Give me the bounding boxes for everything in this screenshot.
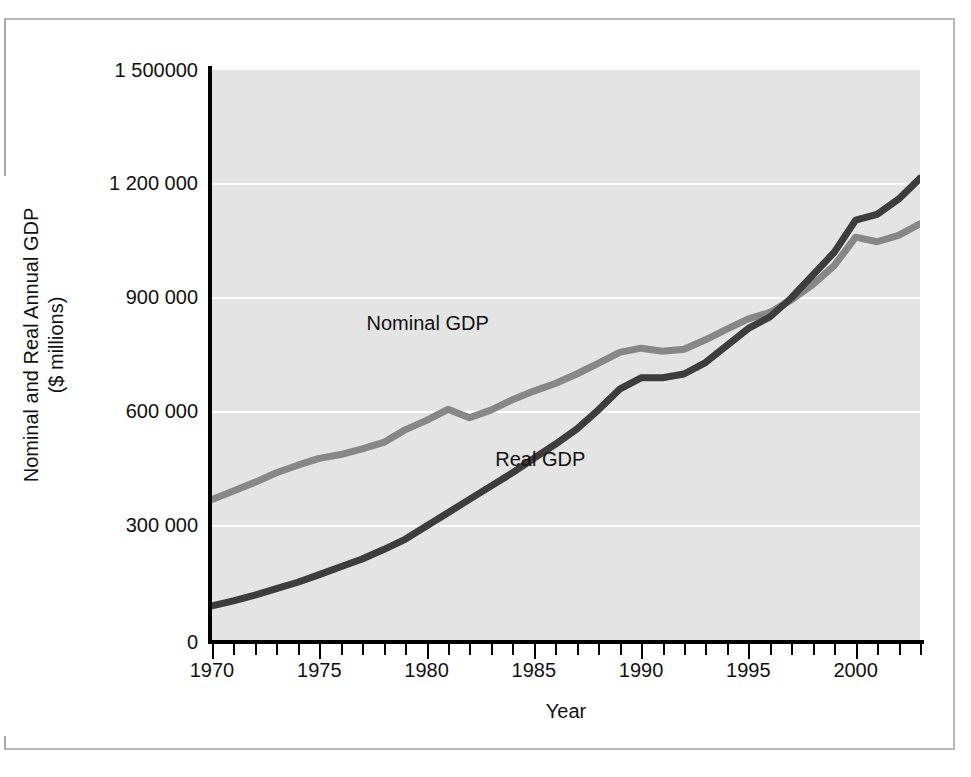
x-tick-1994 [727, 644, 729, 655]
x-tick-1983 [491, 644, 493, 655]
x-tick-label-1980: 1980 [392, 660, 462, 680]
series-label-nominal-gdp: Nominal GDP [367, 312, 489, 335]
y-axis-title-main: Nominal and Real Annual GDP [20, 208, 42, 483]
x-tick-label-1985: 1985 [499, 660, 569, 680]
x-tick-1982 [469, 644, 471, 655]
series-label-real-gdp: Real GDP [495, 448, 585, 471]
x-tick-1984 [512, 644, 514, 655]
x-tick-label-1990: 1990 [606, 660, 676, 680]
x-tick-1990 [641, 644, 643, 659]
x-tick-1995 [748, 644, 750, 659]
y-tick-label-900000: 900 000 [126, 287, 198, 307]
series-lines [212, 70, 920, 640]
x-tick-1971 [233, 644, 235, 655]
x-tick-1991 [663, 644, 665, 655]
y-tick-label-0: 0 [187, 632, 198, 652]
x-tick-1976 [341, 644, 343, 655]
x-tick-1996 [770, 644, 772, 655]
y-axis-title-units: ($ millions) [45, 297, 67, 394]
y-tick-label-600000: 600 000 [126, 401, 198, 421]
x-tick-1989 [620, 644, 622, 655]
x-tick-label-1975: 1975 [284, 660, 354, 680]
y-axis-line [208, 66, 212, 644]
x-tick-label-1970: 1970 [177, 660, 247, 680]
x-tick-1998 [813, 644, 815, 655]
real-gdp-line [212, 178, 920, 606]
x-tick-1974 [298, 644, 300, 655]
x-tick-1978 [384, 644, 386, 655]
x-tick-1980 [427, 644, 429, 659]
x-tick-1972 [255, 644, 257, 655]
x-tick-1997 [791, 644, 793, 655]
x-tick-1981 [448, 644, 450, 655]
x-tick-1973 [276, 644, 278, 655]
y-tick-label-300000: 300 000 [126, 515, 198, 535]
x-tick-label-2000: 2000 [821, 660, 891, 680]
x-tick-label-1995: 1995 [713, 660, 783, 680]
x-axis-title: Year [212, 700, 920, 723]
x-tick-1992 [684, 644, 686, 655]
x-tick-1977 [362, 644, 364, 655]
x-tick-1979 [405, 644, 407, 655]
x-tick-1988 [598, 644, 600, 655]
plot-area: Nominal GDP Real GDP [212, 70, 920, 640]
x-tick-1999 [834, 644, 836, 655]
x-axis-line [208, 640, 924, 644]
y-tick-label-1200000: 1 200 000 [109, 173, 198, 193]
x-tick-2000 [856, 644, 858, 659]
x-tick-2002 [899, 644, 901, 655]
x-tick-1993 [705, 644, 707, 655]
x-tick-2003 [920, 644, 922, 655]
x-tick-1986 [555, 644, 557, 655]
x-tick-2001 [877, 644, 879, 655]
x-tick-1985 [534, 644, 536, 659]
y-tick-label-1500000: 1 500000 [115, 60, 198, 80]
x-tick-1987 [577, 644, 579, 655]
y-axis-title: Nominal and Real Annual GDP ($ millions) [19, 180, 69, 510]
x-tick-1970 [212, 644, 214, 659]
x-tick-1975 [319, 644, 321, 659]
